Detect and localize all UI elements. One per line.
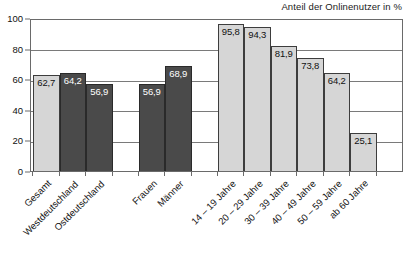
bar-value-label: 25,1 bbox=[351, 136, 376, 146]
bar-value-label: 73,8 bbox=[298, 61, 323, 71]
bar-value-label: 81,9 bbox=[272, 49, 297, 59]
bar: 56,9 bbox=[86, 84, 113, 171]
bar-value-label: 56,9 bbox=[87, 87, 112, 97]
y-axis: 020406080100 bbox=[0, 19, 30, 172]
bar: 94,3 bbox=[244, 27, 271, 171]
bars-layer: 62,764,256,956,968,995,894,381,973,864,2… bbox=[31, 20, 402, 171]
y-tick-label: 60 bbox=[12, 75, 23, 85]
bar: 64,2 bbox=[324, 73, 351, 171]
y-tick-label: 40 bbox=[12, 106, 23, 116]
x-axis-labels: GesamtWestdeutschlandOstdeutschlandFraue… bbox=[0, 176, 405, 268]
bar: 81,9 bbox=[271, 46, 298, 171]
x-axis-category-label: Männer bbox=[155, 178, 186, 209]
bar: 25,1 bbox=[350, 133, 377, 171]
bar: 56,9 bbox=[139, 84, 166, 171]
bar: 62,7 bbox=[33, 75, 60, 171]
plot-area: 62,764,256,956,968,995,894,381,973,864,2… bbox=[30, 19, 403, 172]
bar: 73,8 bbox=[297, 58, 324, 171]
bar-value-label: 64,2 bbox=[61, 76, 86, 86]
y-tick-label: 100 bbox=[7, 14, 23, 24]
bar-chart: Anteil der Onlinenutzer in % 02040608010… bbox=[0, 0, 405, 268]
bar-value-label: 64,2 bbox=[325, 76, 350, 86]
bar: 95,8 bbox=[218, 24, 245, 171]
chart-title: Anteil der Onlinenutzer in % bbox=[281, 1, 402, 12]
y-tick-label: 80 bbox=[12, 45, 23, 55]
bar-value-label: 62,7 bbox=[34, 78, 59, 88]
bar: 64,2 bbox=[60, 73, 87, 171]
bar-value-label: 56,9 bbox=[140, 87, 165, 97]
bar: 68,9 bbox=[165, 66, 192, 171]
bar-value-label: 68,9 bbox=[166, 69, 191, 79]
y-tick-label: 20 bbox=[12, 137, 23, 147]
bar-value-label: 95,8 bbox=[219, 27, 244, 37]
bar-value-label: 94,3 bbox=[245, 30, 270, 40]
x-axis-category-label: Frauen bbox=[130, 178, 159, 207]
